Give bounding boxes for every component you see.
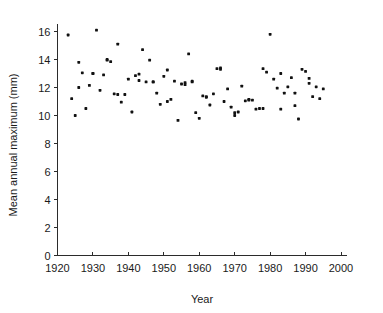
data-point bbox=[145, 81, 148, 84]
data-point bbox=[166, 100, 169, 103]
y-axis: 0246810121416 bbox=[38, 24, 57, 262]
x-axis: 192019301940195019601970198019902000 bbox=[45, 252, 353, 274]
data-point bbox=[286, 85, 289, 88]
data-point bbox=[138, 79, 141, 82]
x-axis-tick-label: 1980 bbox=[258, 262, 282, 274]
y-axis-tick-label: 12 bbox=[38, 82, 50, 94]
data-point bbox=[283, 92, 286, 95]
data-point bbox=[230, 106, 233, 109]
data-point bbox=[92, 72, 95, 75]
y-axis-tick-label: 4 bbox=[44, 194, 50, 206]
y-axis-tick-label: 2 bbox=[44, 222, 50, 234]
data-point bbox=[290, 76, 293, 79]
x-axis-tick-label: 2000 bbox=[329, 262, 353, 274]
x-axis-tick-label: 1930 bbox=[81, 262, 105, 274]
data-point bbox=[81, 71, 84, 74]
data-point bbox=[141, 48, 144, 51]
data-point bbox=[258, 107, 261, 110]
data-point bbox=[265, 71, 268, 74]
data-point bbox=[226, 88, 229, 91]
data-point bbox=[123, 93, 126, 96]
data-point bbox=[131, 111, 134, 114]
data-point bbox=[138, 73, 141, 76]
data-point bbox=[294, 92, 297, 95]
data-point bbox=[219, 68, 222, 71]
data-point bbox=[88, 84, 91, 87]
data-point bbox=[308, 82, 311, 85]
data-point bbox=[77, 61, 80, 64]
data-point bbox=[237, 111, 240, 114]
y-axis-tick-label: 0 bbox=[44, 250, 50, 262]
data-point bbox=[315, 85, 318, 88]
data-point bbox=[159, 103, 162, 106]
data-point bbox=[208, 104, 211, 107]
data-point bbox=[77, 86, 80, 89]
data-point bbox=[70, 97, 73, 100]
data-point bbox=[198, 117, 201, 120]
x-axis-tick-label: 1990 bbox=[293, 262, 317, 274]
data-point bbox=[233, 111, 236, 114]
data-point bbox=[297, 118, 300, 121]
data-point bbox=[212, 92, 215, 95]
data-point bbox=[84, 107, 87, 110]
data-point bbox=[279, 72, 282, 75]
y-axis-tick-label: 16 bbox=[38, 26, 50, 38]
data-point bbox=[311, 95, 314, 98]
data-point bbox=[106, 58, 109, 61]
data-point bbox=[191, 81, 194, 84]
data-point bbox=[116, 93, 119, 96]
data-point bbox=[184, 83, 187, 86]
data-point bbox=[152, 81, 155, 84]
y-axis-tick-label: 10 bbox=[38, 110, 50, 122]
data-point bbox=[180, 83, 183, 86]
data-point bbox=[177, 119, 180, 122]
data-point bbox=[223, 100, 226, 103]
data-point bbox=[255, 108, 258, 111]
data-point bbox=[301, 68, 304, 71]
data-point bbox=[120, 101, 123, 104]
data-point-layer bbox=[67, 29, 325, 122]
y-axis-tick-label: 8 bbox=[44, 138, 50, 150]
data-point bbox=[187, 53, 190, 56]
data-point bbox=[201, 95, 204, 98]
data-point bbox=[240, 85, 243, 88]
data-point bbox=[102, 74, 105, 77]
data-point bbox=[194, 111, 197, 114]
scatter-plot-figure: 0246810121416 19201930194019501960197019… bbox=[0, 0, 383, 313]
data-point bbox=[269, 33, 272, 36]
data-point bbox=[116, 43, 119, 46]
data-point bbox=[308, 77, 311, 80]
data-point bbox=[134, 74, 137, 77]
x-axis-title: Year bbox=[191, 293, 214, 305]
y-axis-tick-label: 14 bbox=[38, 54, 50, 66]
x-axis-tick-label: 1960 bbox=[187, 262, 211, 274]
data-point bbox=[95, 29, 98, 32]
data-point bbox=[279, 108, 282, 111]
data-point bbox=[272, 78, 275, 81]
data-point bbox=[109, 60, 112, 63]
x-axis-tick-label: 1920 bbox=[45, 262, 69, 274]
data-point bbox=[304, 70, 307, 73]
data-point bbox=[262, 107, 265, 110]
data-point bbox=[318, 97, 321, 100]
data-point bbox=[74, 114, 77, 117]
data-point bbox=[166, 69, 169, 72]
data-point bbox=[276, 87, 279, 90]
data-point bbox=[173, 80, 176, 83]
y-axis-title: Mean annual maximum (mm) bbox=[7, 73, 19, 216]
data-point bbox=[67, 34, 70, 37]
plot-canvas: 0246810121416 19201930194019501960197019… bbox=[0, 0, 383, 313]
data-point bbox=[99, 89, 102, 92]
data-point bbox=[294, 104, 297, 107]
data-point bbox=[233, 114, 236, 117]
x-axis-tick-label: 1970 bbox=[222, 262, 246, 274]
data-point bbox=[244, 99, 247, 102]
data-point bbox=[322, 88, 325, 91]
data-point bbox=[155, 92, 158, 95]
data-point bbox=[216, 67, 219, 70]
data-point bbox=[247, 99, 250, 102]
x-axis-tick-label: 1950 bbox=[152, 262, 176, 274]
data-point bbox=[205, 95, 208, 98]
data-point bbox=[262, 67, 265, 70]
data-point bbox=[148, 59, 151, 62]
